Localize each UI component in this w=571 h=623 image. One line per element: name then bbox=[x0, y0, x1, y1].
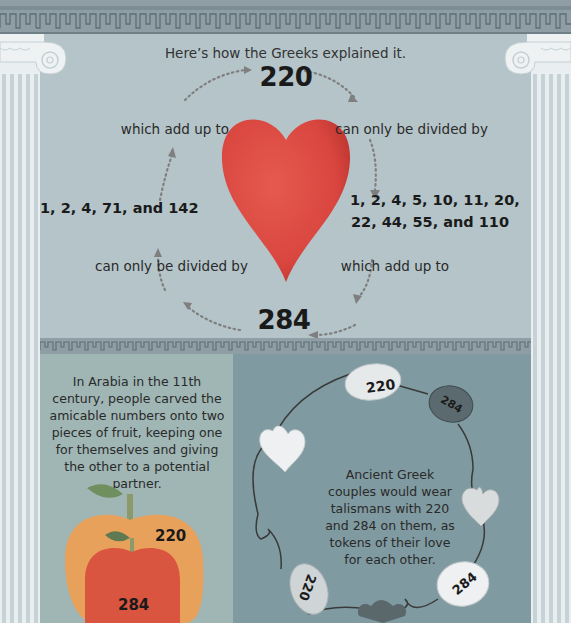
arabia-text: In Arabia in the 11th century, people ca… bbox=[48, 373, 226, 492]
arrow-to-top-left-label bbox=[160, 155, 172, 200]
arrow-to-220 bbox=[185, 70, 245, 100]
greek-key-pattern bbox=[0, 0, 571, 34]
top-left-label: which add up to bbox=[110, 121, 240, 137]
greek-key-frieze-top bbox=[0, 0, 571, 34]
arrow-from-284 bbox=[188, 307, 240, 330]
bottom-left-label: can only be divided by bbox=[95, 258, 245, 274]
apple-number-220: 220 bbox=[155, 527, 186, 545]
intro-text: Here’s how the Greeks explained it. bbox=[0, 45, 571, 61]
talisman-heart-right bbox=[462, 487, 499, 526]
number-220: 220 bbox=[250, 62, 322, 92]
apple-number-284: 284 bbox=[118, 596, 149, 614]
number-284: 284 bbox=[248, 305, 320, 335]
greek-key-frieze-middle bbox=[40, 338, 531, 354]
divisors-of-284: 1, 2, 4, 71, and 142 bbox=[40, 197, 190, 219]
talismans-text: Ancient Greek couples would wear talisma… bbox=[320, 466, 460, 568]
arrow-to-right-divisors bbox=[370, 140, 376, 190]
top-right-label: can only be divided by bbox=[335, 121, 485, 137]
arrow-to-284 bbox=[315, 325, 355, 335]
divisors-of-220-line2: 22, 44, 55, and 110 bbox=[350, 211, 510, 233]
talisman-heart-left bbox=[260, 426, 305, 472]
talisman-heart-bottom bbox=[358, 600, 406, 623]
bottom-right-label: which add up to bbox=[330, 258, 460, 274]
divisors-of-220-line1: 1, 2, 4, 5, 10, 11, 20, bbox=[350, 189, 510, 211]
leaf-icon bbox=[87, 484, 123, 498]
